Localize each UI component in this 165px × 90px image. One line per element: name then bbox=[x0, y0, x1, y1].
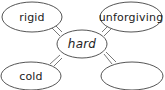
connector-bottom-right bbox=[104, 52, 116, 64]
node-empty-ellipse bbox=[101, 62, 163, 90]
node-label-unforgiving: unforgiving bbox=[99, 11, 164, 24]
node-label-cold: cold bbox=[19, 70, 43, 83]
node-label-rigid: rigid bbox=[19, 11, 45, 24]
center-node-label: hard bbox=[68, 37, 96, 51]
connector-bottom-left bbox=[50, 55, 62, 66]
